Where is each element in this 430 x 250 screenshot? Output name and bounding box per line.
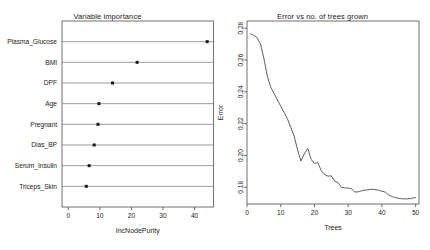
category-label: DPF <box>44 79 57 86</box>
dotchart-row: Pregnant <box>30 121 213 129</box>
category-label: Serum_Insulin <box>15 162 57 170</box>
y-axis-label: Error <box>217 104 224 120</box>
category-label: BMI <box>45 59 57 66</box>
x-axis-tick-label: 30 <box>345 209 353 216</box>
y-axis-tick-label: 0.28 <box>237 21 244 34</box>
data-point-marker <box>96 123 99 126</box>
data-point-marker <box>88 164 91 167</box>
right-plot-frame <box>247 21 419 204</box>
x-axis-tick-label: 10 <box>96 212 104 219</box>
data-point-marker <box>85 185 88 188</box>
y-axis-tick-label: 0.24 <box>237 85 244 98</box>
error-curve <box>250 34 415 199</box>
data-point-marker <box>136 61 139 64</box>
category-label: Dias_BP <box>31 141 57 149</box>
panel-variable-importance: Variable importance Plasma_GlucoseBMIDPF… <box>0 0 215 250</box>
category-label: Age <box>45 100 57 108</box>
data-point-marker <box>206 40 209 43</box>
x-axis-tick-label: 0 <box>66 212 70 219</box>
dotchart-row: DPF <box>44 79 214 86</box>
data-point-marker <box>97 102 100 105</box>
x-axis-label: Trees <box>324 224 342 231</box>
dotchart-row: Serum_Insulin <box>15 162 214 170</box>
x-axis-tick-label: 30 <box>159 212 167 219</box>
variable-importance-plot: Plasma_GlucoseBMIDPFAgePregnantDias_BPSe… <box>0 0 215 250</box>
y-axis-tick-label: 0.22 <box>237 117 244 130</box>
y-axis-tick-label: 0.26 <box>237 53 244 66</box>
category-label: Plasma_Glucose <box>7 38 57 46</box>
x-axis-tick-label: 40 <box>191 212 199 219</box>
x-axis-tick-label: 40 <box>378 209 386 216</box>
y-axis-tick-label: 0.18 <box>237 181 244 194</box>
dotchart-row: Age <box>45 100 213 108</box>
y-axis-tick-label: 0.20 <box>237 149 244 162</box>
dotchart-row: Dias_BP <box>31 141 213 149</box>
x-axis-tick-label: 20 <box>128 212 136 219</box>
data-point-marker <box>111 82 114 85</box>
x-axis-tick-label: 20 <box>311 209 319 216</box>
category-label: Triceps_Skin <box>19 183 57 191</box>
dotchart-row: Plasma_Glucose <box>7 38 213 46</box>
left-plot-frame <box>62 21 214 207</box>
x-axis-tick-label: 10 <box>277 209 285 216</box>
category-label: Pregnant <box>30 121 57 129</box>
x-axis-tick-label: 50 <box>412 209 420 216</box>
panel-error-vs-trees: Error vs no. of trees grown 0.180.200.22… <box>215 0 430 250</box>
x-axis-tick-label: 0 <box>245 209 249 216</box>
figure-canvas: Variable importance Plasma_GlucoseBMIDPF… <box>0 0 430 250</box>
x-axis-label: IncNodePurity <box>116 227 160 235</box>
dotchart-row: BMI <box>45 59 213 66</box>
error-vs-trees-plot: 0.180.200.220.240.260.2801020304050Trees… <box>215 0 430 250</box>
data-point-marker <box>93 144 96 147</box>
dotchart-row: Triceps_Skin <box>19 183 213 191</box>
